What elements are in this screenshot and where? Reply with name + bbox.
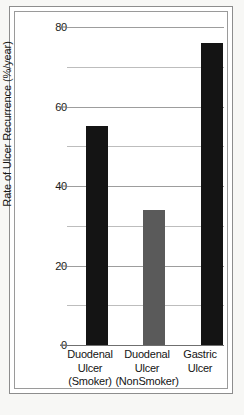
x-axis-line — [60, 345, 224, 346]
plot-area — [67, 27, 224, 345]
y-tick-mark-20 — [60, 265, 67, 266]
x-axis-label-2-line-1: Ulcer — [170, 362, 230, 376]
x-axis-label-1-line-2: (NonSmoker) — [109, 375, 185, 389]
bar-0 — [86, 126, 108, 345]
x-axis-label-2-line-0: Gastric — [170, 348, 230, 362]
figure-container: Rate of Ulcer Recurrence (%/year) 0 20 4… — [0, 0, 244, 415]
x-axis-labels: DuodenalUlcer(Smoker)DuodenalUlcer(NonSm… — [60, 348, 228, 404]
y-tick-mark-60 — [60, 106, 67, 107]
y-tick-mark-40 — [60, 186, 67, 187]
bar-1 — [143, 210, 165, 345]
y-tick-mark-80 — [60, 27, 67, 28]
x-axis-label-2: GastricUlcer — [170, 348, 230, 375]
gridline-major-80 — [67, 27, 224, 28]
bar-2 — [201, 43, 223, 345]
